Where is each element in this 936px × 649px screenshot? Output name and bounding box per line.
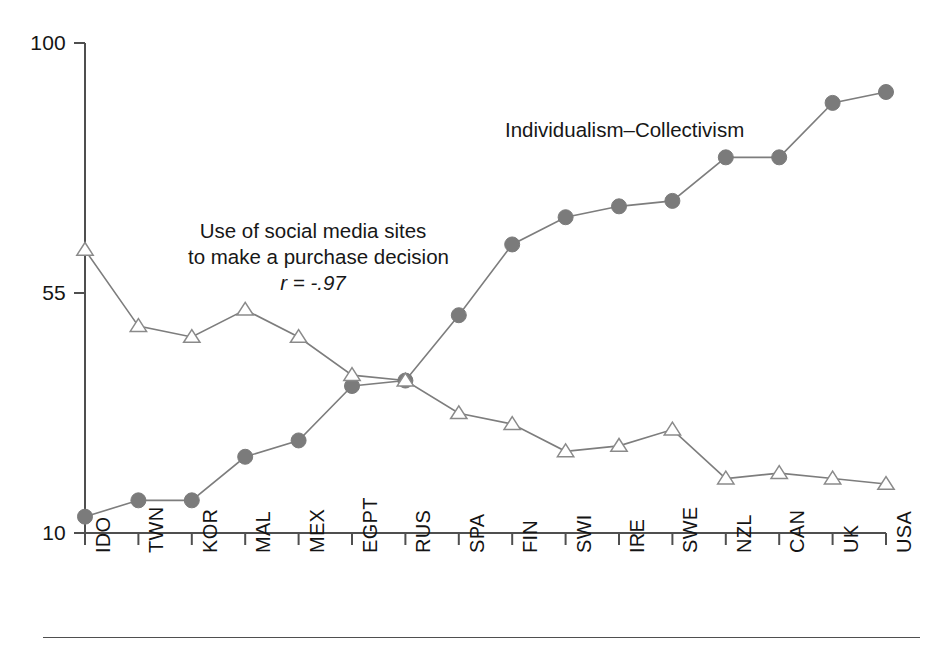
x-tick-label-uk: UK <box>841 525 861 553</box>
data-point-circle-nzl <box>718 150 733 165</box>
data-point-triangle-spa <box>451 406 467 419</box>
chart-figure: 100 55 10 IDOTWNKORMALMEXEGPTRUSSPAFINSW… <box>0 0 936 649</box>
series-line-group <box>85 92 886 517</box>
x-tick-label-rus: RUS <box>413 510 433 553</box>
data-point-circle-ire <box>612 199 627 214</box>
data-point-triangle-can <box>771 466 787 479</box>
data-point-triangle-swe <box>664 422 680 435</box>
data-point-triangle-twn <box>130 319 146 332</box>
x-tick-label-ire: IRE <box>627 519 647 553</box>
data-point-triangle-ido <box>77 242 93 255</box>
data-point-circle-ido <box>78 509 93 524</box>
annotation-social-media: Use of social media sites to make a purc… <box>188 218 438 296</box>
x-tick-label-twn: TWN <box>146 507 166 553</box>
data-point-circle-twn <box>131 493 146 508</box>
y-tick-label-10: 10 <box>0 522 66 543</box>
data-point-circle-spa <box>451 308 466 323</box>
series-line-0 <box>85 92 886 517</box>
y-tick-label-100: 100 <box>0 32 66 53</box>
data-point-circle-mex <box>291 433 306 448</box>
x-tick-label-swe: SWE <box>680 507 700 553</box>
x-tick-label-can: CAN <box>787 510 807 553</box>
x-tick-label-nzl: NZL <box>734 514 754 553</box>
x-tick-label-usa: USA <box>894 511 914 553</box>
series-marker-group <box>77 85 894 525</box>
annotation-correlation: r = -.97 <box>188 270 438 296</box>
x-tick-label-mal: MAL <box>253 511 273 553</box>
data-point-circle-swi <box>558 210 573 225</box>
x-tick-label-egpt: EGPT <box>360 497 380 553</box>
data-point-triangle-mex <box>290 330 306 343</box>
data-point-circle-uk <box>825 95 840 110</box>
x-tick-label-fin: FIN <box>520 520 540 553</box>
data-point-circle-swe <box>665 193 680 208</box>
annotation-individualism-collectivism: Individualism–Collectivism <box>505 117 744 143</box>
data-point-circle-kor <box>184 493 199 508</box>
data-point-circle-usa <box>879 85 894 100</box>
footer-divider <box>43 637 920 638</box>
x-tick-label-kor: KOR <box>200 509 220 553</box>
x-tick-label-ido: IDO <box>93 517 113 553</box>
data-point-triangle-mal <box>237 302 253 315</box>
data-point-triangle-egpt <box>344 368 360 381</box>
x-tick-label-spa: SPA <box>467 514 487 553</box>
annotation-social-media-line1: Use of social media sites <box>188 218 438 244</box>
x-tick-label-swi: SWI <box>574 514 594 553</box>
annotation-social-media-line2: to make a purchase decision <box>188 244 438 270</box>
x-tick-label-mex: MEX <box>307 509 327 553</box>
data-point-circle-can <box>772 150 787 165</box>
y-tick-label-55: 55 <box>0 282 66 303</box>
data-point-circle-mal <box>238 449 253 464</box>
data-point-circle-fin <box>505 237 520 252</box>
